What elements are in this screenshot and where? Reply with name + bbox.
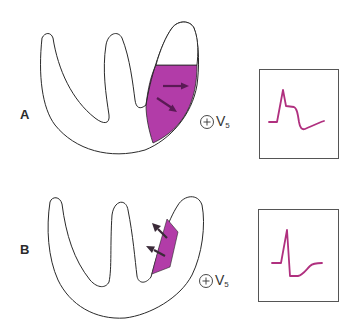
lead-label-b: V5 (215, 272, 229, 289)
electrode-icon (200, 275, 213, 288)
lead-label-a: V5 (216, 113, 230, 130)
electrode-icon (201, 116, 214, 129)
panel-label-a: A (20, 107, 29, 122)
lead-name: V (216, 113, 225, 129)
lead-name: V (215, 272, 224, 288)
heart-diagram-a (41, 22, 214, 154)
figure-canvas (0, 0, 360, 330)
heart-diagram-b (48, 197, 212, 318)
lead-subscript: 5 (224, 280, 228, 289)
infarct-region-a (146, 65, 197, 143)
ecg-box-b (259, 210, 339, 302)
lead-subscript: 5 (225, 121, 229, 130)
ecg-box-a (260, 70, 339, 159)
heart-outline-b (48, 197, 203, 318)
panel-label-b: B (20, 242, 29, 257)
right-lobe-top-a (156, 22, 198, 65)
